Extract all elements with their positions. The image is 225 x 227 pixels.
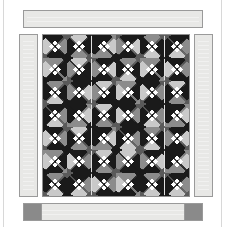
quilt-block <box>116 104 140 127</box>
quilt-block <box>43 150 67 173</box>
quilt-block <box>140 173 164 196</box>
quilt-block <box>140 150 164 173</box>
page-rule-left <box>3 0 4 227</box>
quilt-block <box>140 81 164 104</box>
quilt-block <box>165 104 189 127</box>
quilt-center <box>42 34 190 197</box>
quilt-block <box>67 173 91 196</box>
quilt-block <box>67 58 91 81</box>
quilt-block <box>165 58 189 81</box>
quilt-block <box>92 150 116 173</box>
quilt-block <box>116 150 140 173</box>
quilt-block <box>116 81 140 104</box>
quilt-block <box>67 127 91 150</box>
top-border-strip <box>23 10 203 28</box>
quilt-block <box>140 35 164 58</box>
quilt-block <box>92 104 116 127</box>
right-border-strip <box>194 34 213 197</box>
quilt-block <box>116 58 140 81</box>
left-border-texture <box>23 38 34 193</box>
quilt-block <box>140 104 164 127</box>
quilt-block <box>92 173 116 196</box>
quilt-block <box>43 81 67 104</box>
left-border-strip <box>19 34 38 197</box>
quilt-block <box>140 58 164 81</box>
quilt-block <box>92 35 116 58</box>
quilt-block <box>92 127 116 150</box>
quilt-block <box>43 173 67 196</box>
quilt-block <box>165 35 189 58</box>
page-rule-right <box>221 0 222 227</box>
quilt-block <box>165 81 189 104</box>
quilt-block <box>43 58 67 81</box>
corner-square-left <box>24 204 42 220</box>
quilt-block <box>165 173 189 196</box>
quilt-block <box>43 104 67 127</box>
quilt-block-grid <box>43 35 189 196</box>
quilt-block <box>67 104 91 127</box>
quilt-diagram-canvas <box>0 0 225 227</box>
quilt-block <box>140 127 164 150</box>
quilt-block <box>67 35 91 58</box>
top-border-texture <box>27 14 199 24</box>
quilt-block <box>43 127 67 150</box>
quilt-block <box>43 35 67 58</box>
bottom-border-texture <box>27 207 199 217</box>
quilt-block <box>92 81 116 104</box>
bottom-border-strip <box>23 203 203 221</box>
quilt-block <box>116 173 140 196</box>
quilt-block <box>67 81 91 104</box>
quilt-block <box>165 150 189 173</box>
quilt-block <box>165 127 189 150</box>
quilt-block <box>116 127 140 150</box>
corner-square-right <box>184 204 202 220</box>
quilt-block <box>67 150 91 173</box>
quilt-block <box>116 35 140 58</box>
quilt-block <box>92 58 116 81</box>
right-border-texture <box>198 38 209 193</box>
